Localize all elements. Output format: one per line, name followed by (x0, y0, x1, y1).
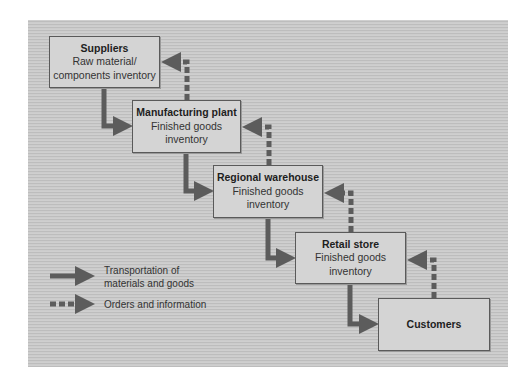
arrow-warehouse-to-retail (268, 218, 287, 258)
node-retail-store: Retail store Finished goods inventory (295, 232, 406, 284)
node-subtitle-line2: inventory (247, 198, 290, 212)
node-title: Regional warehouse (217, 171, 319, 185)
arrow-retail-to-warehouse (333, 193, 351, 232)
node-regional-warehouse: Regional warehouse Finished goods invent… (213, 165, 323, 218)
node-manufacturing-plant: Manufacturing plant Finished goods inven… (132, 100, 241, 153)
arrow-suppliers-to-manufacturing (104, 88, 124, 126)
arrow-warehouse-to-manufacturing (251, 127, 269, 165)
arrow-customers-to-retail (416, 260, 434, 298)
node-subtitle-line2: inventory (165, 133, 208, 147)
node-subtitle-line2: components inventory (53, 69, 156, 83)
arrow-manufacturing-to-warehouse (186, 153, 205, 191)
node-title: Customers (407, 318, 462, 332)
legend-solid-label: Transportation of materials and goods (104, 264, 194, 290)
node-title: Retail store (322, 238, 379, 252)
node-subtitle-line1: Finished goods (232, 185, 303, 199)
node-subtitle-line1: Finished goods (315, 251, 386, 265)
legend-solid-line2: materials and goods (104, 277, 194, 290)
arrow-retail-to-customers (350, 284, 370, 324)
node-suppliers: Suppliers Raw material/ components inven… (49, 36, 160, 88)
node-title: Suppliers (81, 42, 129, 56)
node-subtitle-line1: Finished goods (151, 120, 222, 134)
legend-dashed-label: Orders and information (104, 298, 206, 311)
node-subtitle-line1: Raw material/ (72, 55, 136, 69)
node-subtitle-line2: inventory (329, 265, 372, 279)
node-customers: Customers (378, 298, 490, 351)
arrow-manufacturing-to-suppliers (170, 62, 187, 100)
node-title: Manufacturing plant (136, 106, 236, 120)
legend-solid-line1: Transportation of (104, 264, 194, 277)
